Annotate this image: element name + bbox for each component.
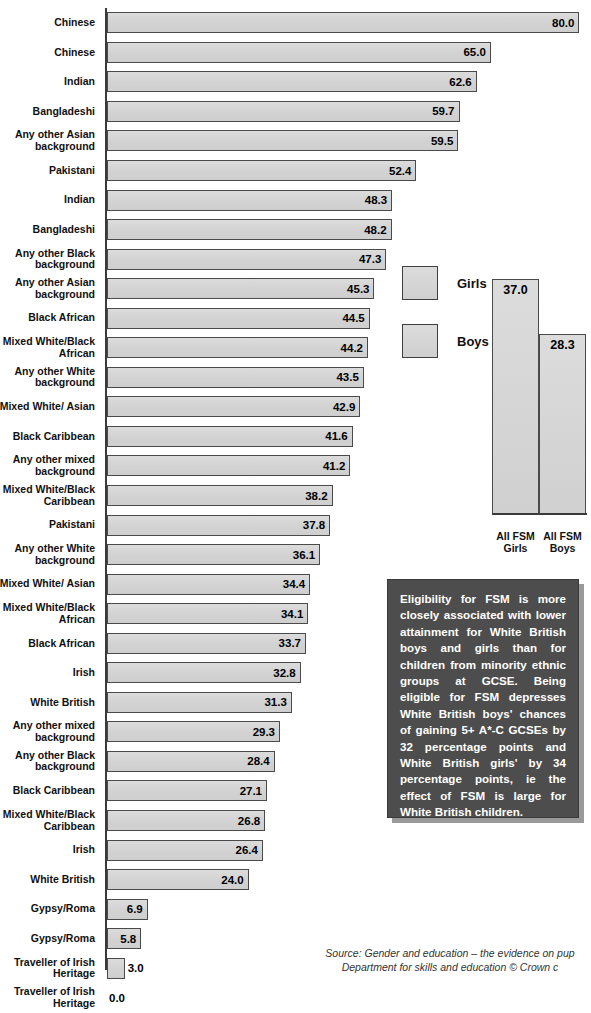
bar-value-label: 59.5 bbox=[431, 135, 453, 147]
bar: 29.3 bbox=[107, 721, 280, 742]
bar-value-label: 45.3 bbox=[347, 283, 369, 295]
bar: 52.4 bbox=[107, 160, 416, 181]
bar-row: Indian62.6 bbox=[0, 67, 591, 97]
bar-row-label: Pakistani bbox=[0, 156, 95, 186]
bar-value-label: 0.0 bbox=[109, 992, 125, 1004]
bar-row-label: Irish bbox=[0, 835, 95, 865]
bar-row-label: Any other mixed background bbox=[0, 451, 95, 481]
bar-row-label: Indian bbox=[0, 185, 95, 215]
bar-container: 48.2 bbox=[107, 215, 392, 245]
bar: 37.8 bbox=[107, 515, 330, 536]
bar-container: 45.3 bbox=[107, 274, 374, 304]
bar: 41.6 bbox=[107, 426, 353, 447]
bar: 34.4 bbox=[107, 574, 310, 595]
bar: 47.3 bbox=[107, 249, 386, 270]
bar-value-label: 36.1 bbox=[293, 549, 315, 561]
bar-value-label: 37.8 bbox=[303, 519, 325, 531]
bar-row-label: Any other Asian background bbox=[0, 126, 95, 156]
bar-row: Bangladeshi59.7 bbox=[0, 97, 591, 127]
bar-row-label: Black Caribbean bbox=[0, 422, 95, 452]
bar-row-label: Mixed White/Black Caribbean bbox=[0, 806, 95, 836]
bar-container: 47.3 bbox=[107, 244, 386, 274]
source-line-1: Source: Gender and education – the evide… bbox=[325, 947, 574, 959]
bar: 31.3 bbox=[107, 692, 292, 713]
bar-value-label: 65.0 bbox=[463, 46, 485, 58]
inset-tick-boys-line1: All FSM bbox=[543, 530, 582, 542]
bar-value-label: 27.1 bbox=[240, 785, 262, 797]
bar-value-label: 44.5 bbox=[342, 312, 364, 324]
bar-row-label: Any other Asian background bbox=[0, 274, 95, 304]
bar: 43.5 bbox=[107, 367, 364, 388]
bar-value-label: 29.3 bbox=[253, 726, 275, 738]
bar-value-label: 42.9 bbox=[333, 401, 355, 413]
bar-value-label: 44.2 bbox=[341, 342, 363, 354]
bar-value-label: 62.6 bbox=[449, 76, 471, 88]
bar: 27.1 bbox=[107, 780, 267, 801]
bar-row-label: Traveller of Irish Heritage bbox=[0, 954, 95, 984]
bar-row: Pakistani52.4 bbox=[0, 156, 591, 186]
inset-bar-all-fsm-boys: 28.3 bbox=[539, 334, 586, 514]
bar-row: Gypsy/Roma6.9 bbox=[0, 894, 591, 924]
bar-container: 65.0 bbox=[107, 38, 491, 68]
bar-row-label: Pakistani bbox=[0, 510, 95, 540]
bar-value-label: 5.8 bbox=[120, 933, 136, 945]
bar-value-label: 32.8 bbox=[273, 667, 295, 679]
bar-row-label: Any other Black background bbox=[0, 747, 95, 777]
bar-container: 26.8 bbox=[107, 806, 265, 836]
bar-container: 41.6 bbox=[107, 422, 353, 452]
bar-row: Any other Asian background59.5 bbox=[0, 126, 591, 156]
bar-container: 59.7 bbox=[107, 97, 460, 127]
bar-container: 36.1 bbox=[107, 540, 320, 570]
bar: 42.9 bbox=[107, 396, 360, 417]
bar-row-label: Irish bbox=[0, 658, 95, 688]
inset-tick-label-girls: All FSM Girls bbox=[492, 530, 539, 554]
bar-row-label: Any other White background bbox=[0, 363, 95, 393]
bar-row: Chinese80.0 bbox=[0, 8, 591, 38]
bar: 6.9 bbox=[107, 899, 148, 920]
bar: 38.2 bbox=[107, 485, 333, 506]
bar-row-label: Gypsy/Roma bbox=[0, 924, 95, 954]
bar-container: 34.4 bbox=[107, 569, 310, 599]
bar: 45.3 bbox=[107, 278, 374, 299]
legend: Girls Boys bbox=[402, 266, 489, 382]
bar-row-label: Indian bbox=[0, 67, 95, 97]
bar: 59.7 bbox=[107, 101, 460, 122]
bar-value-label: 34.1 bbox=[281, 608, 303, 620]
bar: 28.4 bbox=[107, 751, 275, 772]
bar-row-label: White British bbox=[0, 865, 95, 895]
bar: 26.4 bbox=[107, 840, 263, 861]
legend-item-girls: Girls bbox=[402, 266, 489, 300]
callout-box: Eligibility for FSM is more closely asso… bbox=[387, 579, 579, 818]
bar: 5.8 bbox=[107, 928, 141, 949]
bar-row-label: Mixed White/ Asian bbox=[0, 569, 95, 599]
bar-row: Chinese65.0 bbox=[0, 38, 591, 68]
bar-value-label: 41.2 bbox=[323, 460, 345, 472]
bar-container: 29.3 bbox=[107, 717, 280, 747]
inset-bar-value-girls: 37.0 bbox=[493, 283, 538, 297]
bar-row: White British24.0 bbox=[0, 865, 591, 895]
bar-container: 59.5 bbox=[107, 126, 458, 156]
legend-label-boys: Boys bbox=[457, 334, 489, 349]
bar-value-label: 28.4 bbox=[247, 755, 269, 767]
bar-container: 52.4 bbox=[107, 156, 416, 186]
bar-row-label: Mixed White/Black African bbox=[0, 599, 95, 629]
callout-text: Eligibility for FSM is more closely asso… bbox=[400, 591, 566, 821]
bar-row-label: Gypsy/Roma bbox=[0, 894, 95, 924]
legend-item-boys: Boys bbox=[402, 324, 489, 358]
bar: 41.2 bbox=[107, 455, 350, 476]
bar-value-label: 38.2 bbox=[305, 490, 327, 502]
bar-row-label: Any other White background bbox=[0, 540, 95, 570]
bar-value-label: 31.3 bbox=[264, 696, 286, 708]
bar: 34.1 bbox=[107, 603, 308, 624]
bar-container: 28.4 bbox=[107, 747, 275, 777]
bar-container: 44.5 bbox=[107, 303, 370, 333]
bar-container: 3.0 bbox=[107, 954, 125, 984]
bar-container: 44.2 bbox=[107, 333, 368, 363]
bar-row-label: Any other Black background bbox=[0, 244, 95, 274]
legend-label-girls: Girls bbox=[457, 276, 487, 291]
bar: 24.0 bbox=[107, 869, 249, 890]
bar-container: 31.3 bbox=[107, 688, 292, 718]
bar: 26.8 bbox=[107, 810, 265, 831]
bar-container: 48.3 bbox=[107, 185, 392, 215]
bar-value-label: 33.7 bbox=[279, 637, 301, 649]
